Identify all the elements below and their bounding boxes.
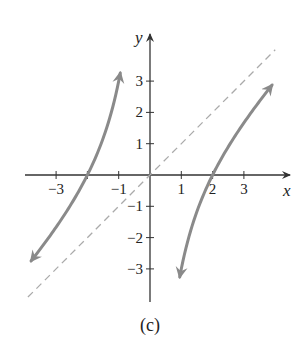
figure-caption: (c) bbox=[140, 315, 160, 336]
x-tick-label: −1 bbox=[111, 181, 127, 197]
x-axis-label: x bbox=[282, 181, 291, 200]
series-layer bbox=[28, 50, 275, 297]
y-tick-label: 2 bbox=[136, 104, 144, 120]
chart: −3−1123 321−1−2−3 x y (c) bbox=[0, 0, 302, 348]
x-tick-label: 3 bbox=[240, 181, 248, 197]
right-branch-curve bbox=[180, 85, 272, 277]
y-tick-label: 1 bbox=[136, 136, 144, 152]
asymptote-line bbox=[28, 50, 275, 297]
y-tick-label: −2 bbox=[127, 230, 143, 246]
left-branch-curve bbox=[31, 73, 120, 261]
y-axis-label: y bbox=[133, 28, 143, 47]
x-tick-label: −3 bbox=[48, 181, 64, 197]
y-tick-label: −3 bbox=[127, 261, 143, 277]
x-tick-label: 1 bbox=[178, 181, 186, 197]
y-tick-label: −1 bbox=[127, 198, 143, 214]
y-tick-label: 3 bbox=[136, 73, 144, 89]
